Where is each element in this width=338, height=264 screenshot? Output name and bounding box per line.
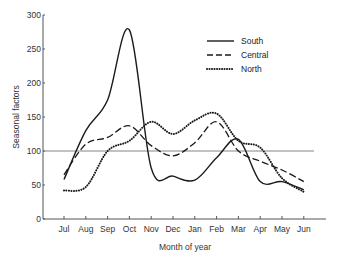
- x-tick-label: May: [274, 224, 291, 234]
- y-axis-title: Seasonal factors: [11, 85, 21, 148]
- seasonal-factors-chart: 050100150200250300 JulAugSepOctNovDecJan…: [0, 0, 338, 264]
- series-central-line: [64, 122, 304, 182]
- y-tick-label: 150: [27, 112, 41, 122]
- x-tick-label: Jan: [188, 224, 202, 234]
- legend-label-central: Central: [241, 50, 269, 60]
- y-axis: 050100150200250300: [27, 10, 45, 224]
- y-tick-label: 200: [27, 78, 41, 88]
- x-tick-label: Sep: [100, 224, 115, 234]
- y-tick-label: 100: [27, 146, 41, 156]
- y-tick-label: 0: [36, 214, 41, 224]
- legend-label-south: South: [241, 36, 263, 46]
- x-tick-label: Nov: [144, 224, 160, 234]
- x-tick-label: Mar: [231, 224, 246, 234]
- legend-label-north: North: [241, 64, 262, 74]
- y-tick-label: 50: [32, 180, 42, 190]
- x-tick-label: Apr: [254, 224, 267, 234]
- y-tick-label: 300: [27, 10, 41, 20]
- legend: SouthCentralNorth: [207, 36, 269, 74]
- x-tick-label: Feb: [209, 224, 224, 234]
- y-tick-label: 250: [27, 44, 41, 54]
- x-tick-label: Oct: [123, 224, 137, 234]
- x-tick-label: Jun: [297, 224, 311, 234]
- x-tick-label: Dec: [165, 224, 181, 234]
- x-axis-title: Month of year: [159, 242, 211, 252]
- x-tick-label: Jul: [59, 224, 70, 234]
- x-tick-label: Aug: [78, 224, 93, 234]
- x-axis: JulAugSepOctNovDecJanFebMarAprMayJun: [43, 216, 326, 234]
